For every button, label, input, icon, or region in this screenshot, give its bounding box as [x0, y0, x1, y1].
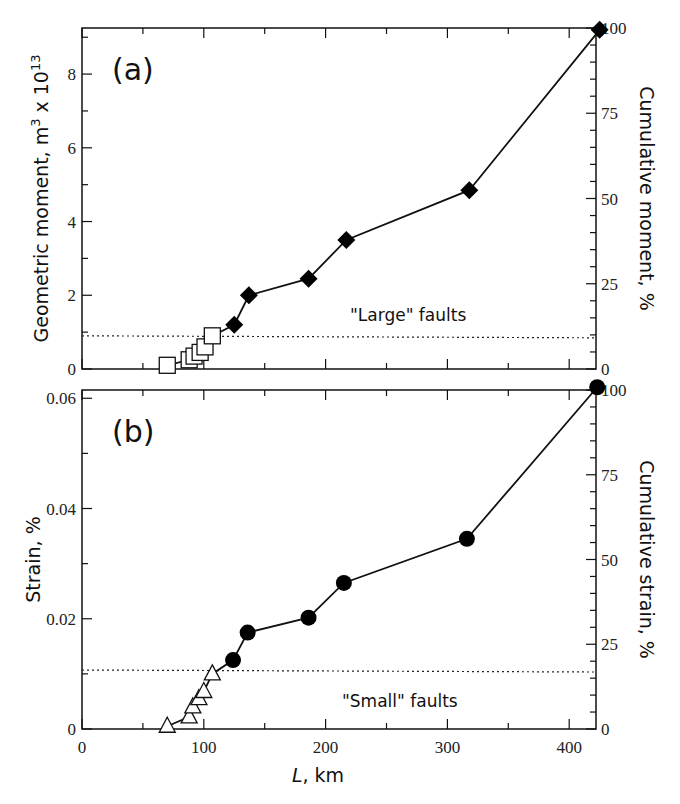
- y-tick-label: 0: [68, 720, 77, 739]
- y-right-tick-label: 25: [601, 275, 618, 294]
- y-tick-label: 8: [68, 65, 77, 84]
- panel-b-threshold-line: [82, 670, 596, 672]
- panel-a-frame: [82, 28, 596, 369]
- x-axis-label-var: L: [292, 764, 303, 786]
- x-tick-label: 100: [191, 738, 217, 757]
- marker-circle: [240, 625, 256, 641]
- marker-circle: [589, 379, 605, 395]
- panel-a: 024680255075100 (a) "Large" faults Geome…: [28, 19, 658, 379]
- marker-diamond: [225, 316, 243, 334]
- panel-b: 010020030040000.020.040.060255075100 (b)…: [22, 379, 658, 757]
- marker-square: [204, 328, 220, 344]
- panel-b-series: [159, 379, 605, 732]
- x-axis-label-unit: , km: [303, 764, 345, 786]
- x-tick-label: 400: [556, 738, 582, 757]
- marker-circle: [336, 575, 352, 591]
- y-right-tick-label: 100: [601, 381, 627, 400]
- series-line: [167, 387, 597, 726]
- panel-a-label: (a): [112, 52, 154, 87]
- ylabel-a-sup1: 3: [28, 119, 43, 127]
- marker-square: [159, 357, 175, 373]
- chart-canvas: 024680255075100 (a) "Large" faults Geome…: [0, 0, 680, 804]
- panel-b-frame: [82, 390, 596, 729]
- y-tick-label: 4: [68, 213, 77, 232]
- panel-b-label: (b): [112, 414, 154, 449]
- panel-a-annotation: "Large" faults: [350, 305, 466, 325]
- x-tick-label: 200: [313, 738, 339, 757]
- panel-b-y-axis-label: Strain, %: [22, 516, 44, 602]
- x-tick-label: 300: [435, 738, 461, 757]
- y-tick-label: 0: [68, 360, 77, 379]
- y-right-tick-label: 25: [601, 635, 618, 654]
- marker-triangle: [204, 665, 220, 680]
- y-tick-label: 6: [68, 139, 77, 158]
- ylabel-a-mid: x 10: [30, 71, 52, 119]
- y-right-tick-label: 50: [601, 190, 618, 209]
- figure: 024680255075100 (a) "Large" faults Geome…: [0, 0, 680, 804]
- panel-a-right-axis-label: Cumulative moment, %: [636, 86, 658, 310]
- y-tick-label: 0.04: [46, 500, 76, 519]
- marker-circle: [301, 610, 317, 626]
- panel-b-right-axis-label: Cumulative strain, %: [636, 460, 658, 659]
- y-tick-label: 0.02: [46, 610, 76, 629]
- marker-circle: [225, 652, 241, 668]
- y-right-tick-label: 75: [601, 104, 618, 123]
- x-axis-label: L, km: [292, 764, 344, 786]
- y-tick-label: 2: [68, 286, 77, 305]
- ylabel-a-sup2: 13: [28, 55, 43, 72]
- panel-b-annotation: "Small" faults: [342, 691, 458, 711]
- x-tick-label: 0: [78, 738, 87, 757]
- ylabel-a-main: Geometric moment, m: [30, 127, 52, 343]
- y-right-tick-label: 50: [601, 551, 618, 570]
- panel-a-y-axis-label: Geometric moment, m3 x 1013: [28, 55, 52, 343]
- panel-a-threshold-line: [82, 336, 596, 338]
- y-tick-label: 0.06: [46, 389, 76, 408]
- y-right-tick-label: 0: [601, 720, 610, 739]
- marker-diamond: [460, 181, 478, 199]
- marker-diamond: [240, 286, 258, 304]
- y-right-tick-label: 75: [601, 466, 618, 485]
- marker-circle: [459, 531, 475, 547]
- y-right-tick-label: 0: [601, 360, 610, 379]
